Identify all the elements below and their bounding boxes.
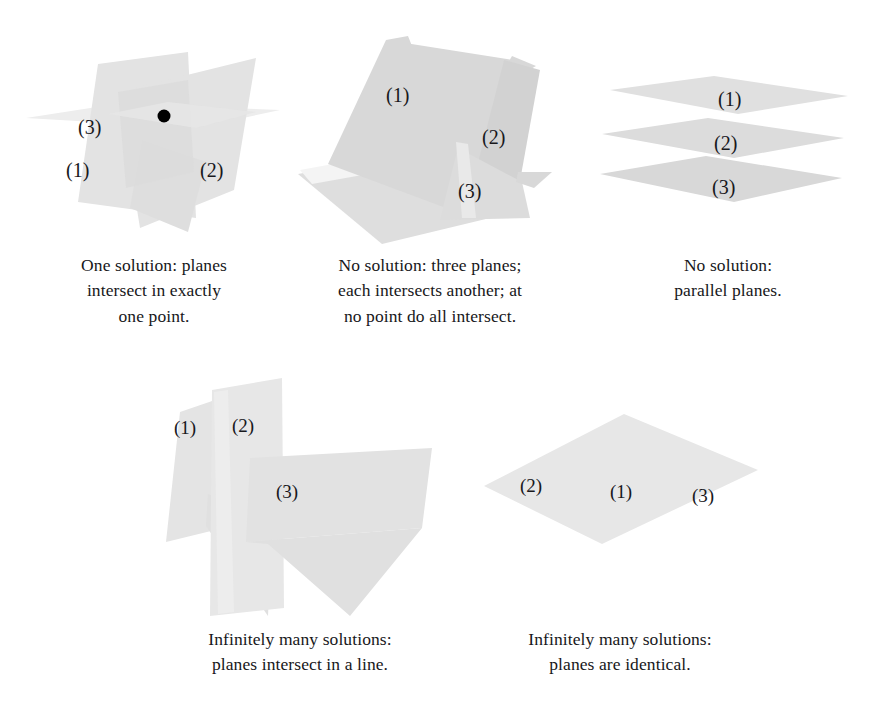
caption-line: one point.: [18, 304, 290, 329]
plane-label-2: (2): [520, 475, 542, 497]
plane-label-1: (1): [718, 88, 741, 111]
diagram-one-solution: (3) (1) (2): [18, 22, 290, 247]
caption-one-solution: One solution: planes intersect in exactl…: [18, 253, 290, 329]
intersection-point: [158, 110, 171, 123]
caption-line: No solution:: [592, 253, 864, 278]
plane-label-1: (1): [386, 84, 409, 107]
caption-parallel-planes: No solution: parallel planes.: [592, 253, 864, 304]
caption-line: One solution: planes: [18, 253, 290, 278]
plane-label-1: (1): [66, 159, 89, 182]
caption-line: No solution: three planes;: [290, 253, 570, 278]
caption-line: no point do all intersect.: [290, 304, 570, 329]
caption-line: planes are identical.: [470, 652, 770, 677]
caption-line: parallel planes.: [592, 278, 864, 303]
plane-label-3: (3): [692, 485, 714, 507]
plane-label-2: (2): [714, 132, 737, 155]
plane-label-3: (3): [78, 116, 101, 139]
plane-label-2: (2): [232, 415, 254, 437]
plane-label-3: (3): [276, 481, 298, 503]
caption-no-solution-triangular: No solution: three planes; each intersec…: [290, 253, 570, 329]
plane-label-2: (2): [200, 159, 223, 182]
caption-line: each intersects another; at: [290, 278, 570, 303]
plane-label-1: (1): [610, 481, 632, 503]
plane-label-3: (3): [712, 176, 735, 199]
caption-line: Infinitely many solutions:: [470, 627, 770, 652]
plane-label-3: (3): [458, 180, 481, 203]
figure-one-solution: (3) (1) (2) One solution: planes interse…: [18, 22, 290, 329]
diagram-intersect-in-line: (1) (2) (3): [150, 376, 450, 621]
diagram-no-solution-triangular: (1) (2) (3): [290, 22, 570, 247]
figure-parallel-planes: (1) (2) (3) No solution: parallel planes…: [592, 22, 864, 304]
figure-intersect-in-line: (1) (2) (3) Infinitely many solutions: p…: [150, 376, 450, 678]
figure-no-solution-triangular: (1) (2) (3) No solution: three planes; e…: [290, 22, 570, 329]
figure-identical-planes: (2) (1) (3) Infinitely many solutions: p…: [470, 376, 770, 678]
caption-line: Infinitely many solutions:: [150, 627, 450, 652]
diagram-parallel-planes: (1) (2) (3): [592, 22, 864, 247]
caption-line: intersect in exactly: [18, 278, 290, 303]
plane-label-1: (1): [174, 417, 196, 439]
plane-overlap-shade: [118, 80, 194, 188]
diagram-identical-planes: (2) (1) (3): [470, 376, 770, 621]
plane-3-shape: [246, 448, 432, 542]
caption-line: planes intersect in a line.: [150, 652, 450, 677]
caption-identical-planes: Infinitely many solutions: planes are id…: [470, 627, 770, 678]
plane-label-2: (2): [482, 126, 505, 149]
caption-intersect-in-line: Infinitely many solutions: planes inters…: [150, 627, 450, 678]
